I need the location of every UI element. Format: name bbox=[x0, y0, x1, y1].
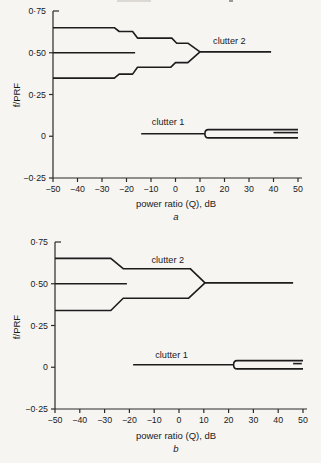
subfigure-caption-b: b bbox=[53, 443, 299, 454]
chart-b-plot: −50−40−30−20−10010203040500·750·500·250−… bbox=[0, 232, 321, 428]
y-tick-label: 0·50 bbox=[28, 48, 46, 58]
x-tick-label: −40 bbox=[70, 184, 85, 194]
x-tick-label: 0 bbox=[173, 184, 178, 194]
x-tick-label: −40 bbox=[72, 415, 87, 425]
y-axis-title-b: f/PRF bbox=[11, 310, 23, 344]
clutter-2-label: clutter 2 bbox=[151, 255, 184, 265]
x-tick-label: 40 bbox=[269, 184, 279, 194]
x-tick-label: −10 bbox=[144, 184, 159, 194]
x-tick-label: −50 bbox=[48, 415, 63, 425]
y-tick-label: 0·25 bbox=[28, 90, 46, 100]
x-tick-label: 50 bbox=[298, 415, 308, 425]
y-tick-label: 0 bbox=[43, 362, 48, 372]
y-tick-label: 0·75 bbox=[30, 237, 48, 247]
x-tick-label: −20 bbox=[122, 415, 137, 425]
x-axis-title-a: power ratio (Q), dB bbox=[53, 198, 299, 209]
subfigure-b: −50−40−30−20−10010203040500·750·500·250−… bbox=[0, 232, 321, 463]
axes bbox=[53, 11, 302, 178]
x-tick-label: 20 bbox=[224, 415, 234, 425]
x-tick-label: 50 bbox=[293, 184, 303, 194]
y-tick-label: 0 bbox=[41, 131, 46, 141]
x-tick-label: −10 bbox=[147, 415, 162, 425]
y-tick-label: −0·25 bbox=[25, 404, 48, 414]
x-tick-label: 10 bbox=[199, 415, 209, 425]
clutter2-upper-boundary bbox=[53, 28, 200, 52]
subfigure-a: −50−40−30−20−10010203040500·750·500·250−… bbox=[0, 0, 321, 232]
x-tick-label: 20 bbox=[220, 184, 230, 194]
x-tick-label: −50 bbox=[46, 184, 61, 194]
x-tick-label: −20 bbox=[119, 184, 134, 194]
y-tick-label: 0·50 bbox=[30, 279, 48, 289]
y-tick-label: 0·25 bbox=[30, 321, 48, 331]
clutter-2-label: clutter 2 bbox=[213, 36, 246, 46]
x-axis-title-b: power ratio (Q), dB bbox=[53, 430, 299, 441]
clutter2-lower-boundary bbox=[55, 283, 205, 311]
clutter1-split-band bbox=[205, 130, 298, 138]
y-axis-title-a: f/PRF bbox=[11, 78, 23, 112]
x-tick-label: 40 bbox=[273, 415, 283, 425]
x-tick-label: 0 bbox=[177, 415, 182, 425]
subfigure-caption-a: a bbox=[53, 211, 299, 222]
y-tick-label: −0·25 bbox=[23, 173, 46, 183]
clipped-text-fragment bbox=[229, 0, 233, 2]
clipped-text-fragment bbox=[117, 0, 151, 2]
clutter-spectra-figure: −50−40−30−20−10010203040500·750·500·250−… bbox=[0, 0, 321, 463]
clutter-1-label: clutter 1 bbox=[152, 117, 185, 127]
clutter2-lower-boundary bbox=[53, 52, 200, 78]
y-tick-label: 0·75 bbox=[28, 6, 46, 16]
clutter-1-label: clutter 1 bbox=[155, 350, 188, 360]
x-tick-label: 30 bbox=[249, 415, 259, 425]
axes bbox=[55, 242, 307, 409]
chart-a-plot: −50−40−30−20−10010203040500·750·500·250−… bbox=[0, 0, 321, 196]
x-tick-label: 10 bbox=[195, 184, 205, 194]
x-tick-label: −30 bbox=[97, 415, 112, 425]
x-tick-label: −30 bbox=[95, 184, 110, 194]
clutter1-split-band bbox=[234, 361, 303, 369]
x-tick-label: 30 bbox=[244, 184, 254, 194]
